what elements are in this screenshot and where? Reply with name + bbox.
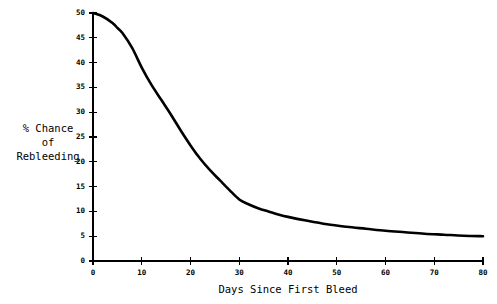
x-tick-label-80: 80 [478, 268, 488, 277]
y-tick-label-5: 5 [80, 231, 85, 240]
y-tick-label-30: 30 [76, 107, 86, 116]
x-tick-label-50: 50 [332, 268, 342, 277]
x-tick-label-10: 10 [137, 268, 147, 277]
y-tick-label-0: 0 [80, 256, 85, 265]
x-tick-label-40: 40 [283, 268, 293, 277]
x-tick-label-20: 20 [186, 268, 196, 277]
x-tick-label-0: 0 [91, 268, 96, 277]
y-tick-label-35: 35 [76, 82, 85, 91]
y-tick-label-40: 40 [76, 58, 86, 67]
y-tick-label-50: 50 [76, 8, 86, 17]
x-tick-label-60: 60 [381, 268, 391, 277]
rebleeding-line-chart: 05101520253035404550 01020304050607080 D… [0, 0, 497, 304]
y-tick-label-15: 15 [76, 182, 85, 191]
y-tick-label-45: 45 [76, 33, 85, 42]
chart-container: 05101520253035404550 01020304050607080 D… [0, 0, 497, 304]
x-axis-title: Days Since First Bleed [218, 283, 357, 295]
y-tick-label-25: 25 [76, 132, 85, 141]
y-tick-label-10: 10 [76, 206, 86, 215]
y-axis-title-line-3: Rebleeding [16, 150, 79, 162]
y-axis-title-line-2: of [42, 136, 55, 148]
x-tick-label-30: 30 [235, 268, 245, 277]
y-axis-title-line-1: % Chance [23, 122, 74, 134]
x-tick-label-70: 70 [430, 268, 440, 277]
